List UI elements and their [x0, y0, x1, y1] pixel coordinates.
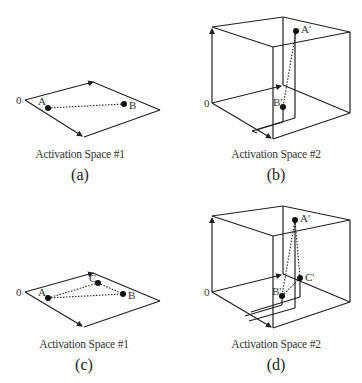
point-A-prime-label: A'	[301, 23, 311, 35]
axis-arrow-front	[212, 103, 271, 138]
distance-line-AC-prime	[295, 220, 300, 278]
point-B-label: B	[128, 289, 135, 301]
origin-label: 0	[204, 286, 210, 298]
cube-outline	[212, 17, 350, 139]
panel-a-diagram: 0 A B	[16, 82, 160, 137]
caption-panel-b: Activation Space #2	[231, 148, 320, 160]
point-A-label: A	[38, 286, 46, 298]
sublabel-panel-b: (b)	[267, 166, 286, 184]
origin-label: 0	[16, 286, 22, 298]
panel-d-diagram: 0 A' B' C'	[204, 206, 350, 328]
axis-arrow-back	[212, 86, 281, 103]
distance-line-CB-prime	[282, 278, 300, 296]
sublabel-panel-d: (d)	[267, 356, 286, 374]
plane-edge	[93, 82, 160, 110]
origin-label: 0	[204, 97, 210, 109]
point-C-label: C	[89, 272, 96, 284]
sublabel-panel-c: (c)	[75, 356, 93, 374]
point-A-prime	[293, 28, 299, 34]
point-B-prime-label: B'	[273, 96, 282, 108]
figure-canvas: 0 A B	[0, 0, 362, 383]
distance-line-CB	[98, 283, 123, 294]
panel-b-diagram: 0 A' B'	[204, 17, 350, 139]
caption-panel-d: Activation Space #2	[231, 338, 320, 350]
panel-c-diagram: 0 A B C	[16, 272, 160, 327]
point-C-prime-label: C'	[305, 271, 314, 283]
axis-arrow-top	[25, 82, 93, 100]
point-A-label: A	[38, 95, 46, 107]
distance-line-AB	[48, 104, 124, 108]
plane-edge	[84, 110, 160, 137]
caption-panel-a: Activation Space #1	[35, 148, 124, 160]
point-B-label: B	[129, 99, 136, 111]
point-B-prime-label: B'	[272, 285, 281, 297]
point-B	[121, 101, 127, 107]
point-A-prime	[292, 217, 298, 223]
plane-outline	[25, 82, 160, 137]
point-A-prime-label: A'	[300, 212, 310, 224]
cube-outline	[212, 206, 350, 328]
point-B	[120, 291, 126, 297]
origin-label: 0	[16, 94, 22, 106]
caption-panel-c: Activation Space #1	[39, 338, 128, 350]
distance-line-AB	[48, 294, 123, 298]
sublabel-panel-a: (a)	[71, 166, 89, 184]
axis-arrow-bottom	[25, 100, 82, 136]
point-C-prime	[297, 275, 303, 281]
